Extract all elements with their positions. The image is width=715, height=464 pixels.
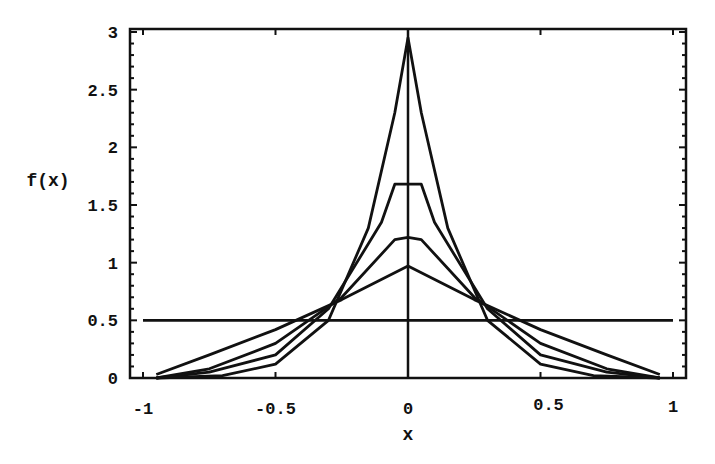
y-tick-label: 0 (108, 370, 118, 389)
y-tick-label: 3 (108, 24, 118, 43)
x-tick-label: 0.5 (533, 396, 564, 415)
y-axis-title: f(x) (26, 171, 69, 191)
x-tick-label: 0 (403, 400, 413, 419)
y-tick-label: 2.5 (87, 82, 118, 101)
plot-frame (130, 29, 686, 378)
x-tick-label: 1 (668, 398, 678, 417)
y-tick-label: 0.5 (87, 312, 118, 331)
y-tick-label: 2 (108, 139, 118, 158)
x-tick-label: -1 (133, 400, 153, 419)
x-tick-label: -0.5 (255, 400, 296, 419)
chart: -1-0.500.5100.511.522.53 x f(x) (0, 0, 715, 464)
x-axis-title: x (403, 425, 414, 445)
y-tick-label: 1.5 (87, 197, 118, 216)
y-tick-label: 1 (108, 255, 118, 274)
